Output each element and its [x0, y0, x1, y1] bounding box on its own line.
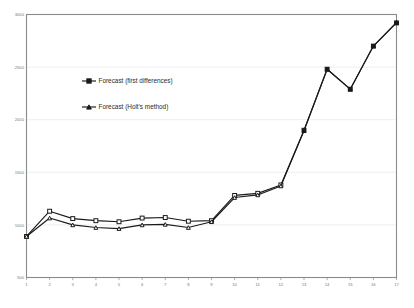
data-point-marker-square	[117, 220, 121, 224]
data-point-marker-square	[163, 216, 167, 220]
x-tick-label-16: 16	[371, 282, 376, 287]
legend-label: Forecast (Holt's method)	[99, 103, 169, 111]
data-point-marker-square	[94, 219, 98, 223]
data-point-marker-square	[87, 79, 91, 83]
x-tick-label-12: 12	[279, 282, 284, 287]
legend-label: Forecast (first differences)	[99, 77, 173, 85]
y-tick-label-500: 500	[17, 275, 25, 280]
x-tick-label-17: 17	[394, 282, 399, 287]
y-tick-label-2000: 2000	[15, 117, 25, 122]
x-tick-label-14: 14	[325, 282, 330, 287]
data-point-marker-square	[140, 216, 144, 220]
data-point-marker-square	[48, 209, 52, 213]
y-tick-label-2500: 2500	[15, 65, 25, 70]
data-point-marker-square	[186, 219, 190, 223]
chart-container: 50010001500200025003000 1234567891011121…	[0, 0, 414, 308]
x-tick-label-15: 15	[348, 282, 353, 287]
line-chart: 50010001500200025003000 1234567891011121…	[0, 0, 414, 308]
y-tick-label-1500: 1500	[15, 170, 25, 175]
x-tick-label-11: 11	[256, 282, 261, 287]
chart-background	[0, 0, 414, 308]
data-point-marker-square	[71, 217, 75, 221]
y-tick-label-1000: 1000	[15, 223, 25, 228]
x-tick-label-10: 10	[232, 282, 237, 287]
x-tick-label-13: 13	[302, 282, 307, 287]
y-tick-label-3000: 3000	[15, 12, 25, 17]
